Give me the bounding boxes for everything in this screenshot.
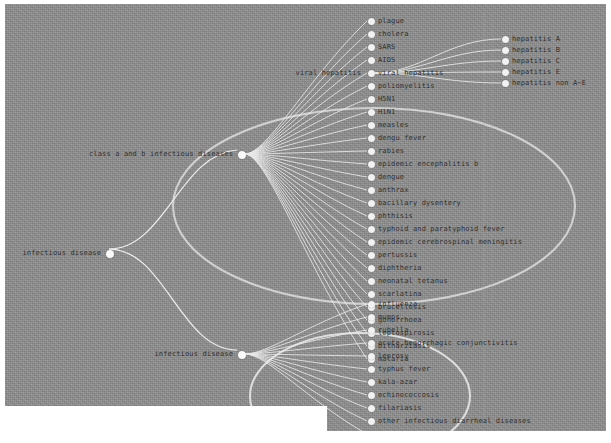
leaf-node-other-infectious-diarrheal-diseases[interactable] (368, 418, 375, 425)
leaf-label-h1n1: H1N1 (378, 108, 395, 116)
branch-node-1-infectious-disease[interactable] (238, 351, 246, 359)
leaf-node-echinococcosis[interactable] (368, 392, 375, 399)
leaf-label-dengu-fever: dengu fever (378, 134, 426, 142)
leaf-node-rabies[interactable] (368, 148, 375, 155)
root-branch-links (109, 150, 237, 350)
leaf-label-typhoid-and-paratyphoid-fever: typhoid and paratyphoid fever (378, 225, 505, 233)
leaf-node-poliomyelitis[interactable] (368, 83, 375, 90)
leaf-label-mumps: mumps (378, 313, 400, 321)
leaf-node-dengue[interactable] (368, 174, 375, 181)
branch-label-0-class-a-and-b-infectious-diseases: class a and b infectious diseases (89, 150, 233, 158)
leaf-node-hand-foot-and-mouth-disease[interactable] (368, 431, 375, 432)
leaf-label-echinococcosis: echinococcosis (378, 391, 439, 399)
leaf-label-rubella: rubella (378, 326, 409, 334)
leaf-node-h1n1[interactable] (368, 109, 375, 116)
leaf-node-hepatitis-a[interactable] (502, 36, 509, 43)
leaf-label-epidemic-encephalitis-b: epidemic encephalitis b (378, 160, 478, 168)
leaf-node-leprosy[interactable] (368, 353, 375, 360)
leaf-label-filariasis: filariasis (378, 404, 422, 412)
leaf-node-acute-hemorrhagic-conjunctivitis[interactable] (368, 340, 375, 347)
leaf-label-bacillary-dysentery: bacillary dysentery (378, 199, 461, 207)
leaf-node-typhus-fever[interactable] (368, 366, 375, 373)
leaf-label-rabies: rabies (378, 147, 404, 155)
leaf-label-hand-foot-and-mouth-disease: hand-foot-and-mouth disease (378, 430, 496, 431)
leaf-node-viral-hepatitis[interactable] (368, 70, 375, 77)
leaf-label-measles: measles (378, 121, 409, 129)
leaf-node-cholera[interactable] (368, 31, 375, 38)
leaf-label-pertussis: pertussis (378, 251, 417, 259)
leaf-label-dengue: dengue (378, 173, 404, 181)
leaf-node-influenza[interactable] (368, 301, 375, 308)
leaf-label-hepatitis-b: hepatitis B (512, 46, 560, 54)
leaf-label-kala-azar: kala-azar (378, 378, 417, 386)
leaf-label-epidemic-cerebrospinal-meningitis: epidemic cerebrospinal meningitis (378, 238, 522, 246)
leaf-node-rubella[interactable] (368, 327, 375, 334)
leaf-node-hepatitis-non-a-e[interactable] (502, 80, 509, 87)
leaf-node-epidemic-cerebrospinal-meningitis[interactable] (368, 239, 375, 246)
screenshot-root: infectious diseaseclass a and b infectio… (0, 0, 611, 443)
leaf-node-kala-azar[interactable] (368, 379, 375, 386)
sub-branch-label-viral-hepatitis: viral hepatitis (296, 69, 361, 77)
diagram-canvas[interactable]: infectious diseaseclass a and b infectio… (5, 4, 606, 431)
leaf-label-anthrax: anthrax (378, 186, 409, 194)
leaf-label-scarlatina: scarlatina (378, 290, 422, 298)
leaf-label-cholera: cholera (378, 30, 409, 38)
leaf-node-neonatal-tetanus[interactable] (368, 278, 375, 285)
leaf-label-hepatitis-non-a-e: hepatitis non A~E (512, 79, 586, 87)
leaf-node-hepatitis-e[interactable] (502, 69, 509, 76)
leaf-node-hepatitis-c[interactable] (502, 58, 509, 65)
leaf-node-epidemic-encephalitis-b[interactable] (368, 161, 375, 168)
leaf-label-acute-hemorrhagic-conjunctivitis: acute hemorrhagic conjunctivitis (378, 339, 518, 347)
leaf-label-poliomyelitis: poliomyelitis (378, 82, 435, 90)
leaf-label-neonatal-tetanus: neonatal tetanus (378, 277, 448, 285)
leaf-label-influenza: influenza (378, 300, 417, 308)
leaf-node-anthrax[interactable] (368, 187, 375, 194)
leaf-node-bacillary-dysentery[interactable] (368, 200, 375, 207)
leaf-label-hepatitis-a: hepatitis A (512, 35, 560, 43)
leaf-node-hepatitis-b[interactable] (502, 47, 509, 54)
branch-node-0-class-a-and-b-infectious-diseases[interactable] (238, 151, 246, 159)
leaf-label-leprosy: leprosy (378, 352, 409, 360)
leaf-node-h5n1[interactable] (368, 96, 375, 103)
root-node-infectious-disease[interactable] (106, 250, 114, 258)
leaf-node-filariasis[interactable] (368, 405, 375, 412)
leaf-node-dengu-fever[interactable] (368, 135, 375, 142)
leaf-node-pertussis[interactable] (368, 252, 375, 259)
leaf-label-plague: plague (378, 17, 404, 25)
root-label-infectious-disease: infectious disease (22, 249, 101, 257)
leaf-node-mumps[interactable] (368, 314, 375, 321)
leaf-node-plague[interactable] (368, 18, 375, 25)
leaf-node-aids[interactable] (368, 57, 375, 64)
class-c-link-bundle (245, 304, 367, 431)
leaf-node-scarlatina[interactable] (368, 291, 375, 298)
leaf-label-other-infectious-diarrheal-diseases: other infectious diarrheal diseases (378, 417, 531, 425)
leaf-node-phthisis[interactable] (368, 213, 375, 220)
leaf-label-hepatitis-e: hepatitis E (512, 68, 560, 76)
leaf-label-sars: SARS (378, 43, 395, 51)
leaf-label-hepatitis-c: hepatitis C (512, 57, 560, 65)
leaf-label-viral-hepatitis: viral hepatitis (378, 69, 443, 77)
leaf-node-diphtheria[interactable] (368, 265, 375, 272)
leaf-node-sars[interactable] (368, 44, 375, 51)
leaf-label-typhus-fever: typhus fever (378, 365, 430, 373)
leaf-label-aids: AIDS (378, 56, 395, 64)
leaf-label-diphtheria: diphtheria (378, 264, 422, 272)
branch-label-1-infectious-disease: infectious disease (154, 350, 233, 358)
leaf-node-typhoid-and-paratyphoid-fever[interactable] (368, 226, 375, 233)
leaf-node-measles[interactable] (368, 122, 375, 129)
leaf-label-phthisis: phthisis (378, 212, 413, 220)
leaf-label-h5n1: H5N1 (378, 95, 395, 103)
